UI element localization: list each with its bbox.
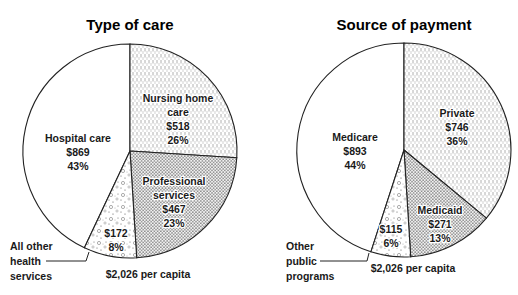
svg-text:public: public [286, 255, 317, 267]
svg-text:health: health [10, 255, 41, 267]
chart-title-type-of-care: Type of care [86, 16, 173, 33]
svg-text:36%: 36% [446, 135, 468, 147]
total-per-capita-left: $2,026 per capita [106, 268, 191, 280]
svg-text:$869: $869 [66, 146, 90, 158]
svg-text:44%: 44% [344, 159, 366, 171]
svg-text:$518: $518 [166, 120, 190, 132]
svg-text:Hospital care: Hospital care [45, 132, 111, 144]
svg-text:All other: All other [10, 240, 53, 252]
svg-text:8%: 8% [108, 241, 124, 253]
svg-text:care: care [167, 106, 189, 118]
svg-text:Medicaid: Medicaid [418, 204, 463, 216]
svg-text:$893: $893 [343, 145, 367, 157]
svg-text:Other: Other [286, 240, 314, 252]
source-of-payment-chart: Source of payment Private $746 36% Medic… [286, 16, 511, 282]
svg-text:programs: programs [286, 270, 335, 282]
svg-text:$172: $172 [104, 227, 128, 239]
charts-canvas: Type of care Nursing home care $518 26% … [0, 0, 518, 295]
svg-text:$467: $467 [162, 203, 186, 215]
svg-text:services: services [153, 189, 195, 201]
svg-text:$115: $115 [380, 223, 403, 235]
svg-text:Professional: Professional [142, 175, 205, 187]
callout-all-other-health-services: All other health services [10, 240, 89, 282]
leader-line [46, 252, 89, 261]
type-of-care-chart: Type of care Nursing home care $518 26% … [10, 16, 237, 282]
svg-text:13%: 13% [429, 232, 451, 244]
leader-line [320, 253, 369, 261]
svg-text:26%: 26% [167, 134, 189, 146]
chart-title-source-of-payment: Source of payment [336, 16, 471, 33]
total-per-capita-right: $2,026 per capita [371, 262, 456, 274]
svg-text:Medicare: Medicare [332, 131, 378, 143]
svg-text:$271: $271 [428, 218, 452, 230]
svg-text:43%: 43% [67, 160, 89, 172]
svg-text:Private: Private [439, 107, 474, 119]
svg-text:6%: 6% [383, 237, 399, 249]
svg-text:services: services [10, 270, 52, 282]
svg-text:23%: 23% [163, 217, 185, 229]
svg-text:$746: $746 [445, 121, 469, 133]
svg-text:Nursing home: Nursing home [143, 92, 214, 104]
